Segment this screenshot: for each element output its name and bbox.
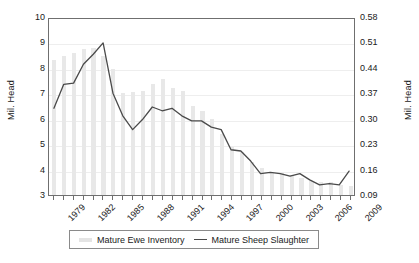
x-axis-tick-label: 1982 [96,202,117,223]
x-axis-tick-mark [320,196,321,200]
x-axis-tick-mark [162,196,163,200]
x-axis-tick-label: 2009 [363,202,384,223]
x-axis-tick-mark [93,196,94,200]
x-axis-tick-mark [271,196,272,200]
x-axis-tick-label: 2000 [274,202,295,223]
y-axis-left-tick-label: 3 [5,190,45,200]
y-axis-right-tick-label: 0.30 [360,114,400,124]
line-swatch-icon [194,239,207,240]
x-axis-tick-mark [261,196,262,200]
y-axis-left-tick-label: 6 [5,114,45,124]
x-axis-tick-label: 1985 [125,202,146,223]
x-axis-tick-mark [63,196,64,200]
x-axis-tick-label: 1994 [214,202,235,223]
legend-item-mature-sheep-slaughter: Mature Sheep Slaughter [194,235,310,245]
x-axis-tick-mark [291,196,292,200]
x-axis-tick-label: 2006 [333,202,354,223]
y-axis-right-tick-label: 0.16 [360,165,400,175]
x-axis-tick-mark [281,196,282,200]
x-axis-tick-mark [310,196,311,200]
x-axis-tick-mark [330,196,331,200]
y-axis-right-tick-label: 0.09 [360,190,400,200]
line-series-mature-sheep-slaughter [49,19,354,195]
y-axis-right-tick-label: 0.23 [360,139,400,149]
x-axis-tick-mark [301,196,302,200]
y-axis-left-tick-label: 4 [5,165,45,175]
x-axis-tick-mark [251,196,252,200]
legend-label: Mature Sheep Slaughter [212,235,310,245]
y-axis-right-title: Mil. Head [403,65,413,135]
x-axis-tick-mark [73,196,74,200]
x-axis-tick-label: 2003 [303,202,324,223]
x-axis-tick-mark [152,196,153,200]
x-axis-tick-label: 1997 [244,202,265,223]
x-axis-tick-mark [112,196,113,200]
x-axis-tick-mark [350,196,351,200]
x-axis-tick-label: 1991 [185,202,206,223]
x-axis-tick-mark [340,196,341,200]
y-axis-left-title: Mil. Head [6,65,16,135]
x-axis-tick-mark [53,196,54,200]
x-axis-tick-mark [241,196,242,200]
x-axis-tick-mark [132,196,133,200]
x-axis-tick-mark [83,196,84,200]
y-axis-right-tick-label: 0.58 [360,12,400,22]
y-axis-left-tick-label: 7 [5,88,45,98]
legend-item-mature-ewe-inventory: Mature Ewe Inventory [79,235,185,245]
x-axis-tick-mark [231,196,232,200]
legend-label: Mature Ewe Inventory [97,235,185,245]
y-axis-right-tick-label: 0.37 [360,88,400,98]
y-axis-left-tick-label: 9 [5,37,45,47]
x-axis-tick-mark [102,196,103,200]
x-axis-tick-mark [202,196,203,200]
y-axis-left-tick-label: 8 [5,63,45,73]
y-axis-right-tick-label: 0.51 [360,37,400,47]
x-axis-tick-mark [182,196,183,200]
x-axis-tick-mark [122,196,123,200]
x-axis-tick-label: 1988 [155,202,176,223]
x-axis-tick-mark [172,196,173,200]
chart-container: Mil. Head Mil. Head 345678910 0.090.160.… [0,0,419,263]
x-axis-tick-mark [211,196,212,200]
x-axis-tick-mark [142,196,143,200]
x-axis-tick-mark [221,196,222,200]
bar-swatch-icon [79,238,92,242]
x-axis-tick-label: 1979 [66,202,87,223]
y-axis-left-tick-label: 5 [5,139,45,149]
plot-area [48,18,355,196]
y-axis-right-tick-label: 0.44 [360,63,400,73]
y-axis-left-tick-label: 10 [5,12,45,22]
chart-legend: Mature Ewe Inventory Mature Sheep Slaugh… [69,230,319,249]
x-axis-tick-mark [192,196,193,200]
